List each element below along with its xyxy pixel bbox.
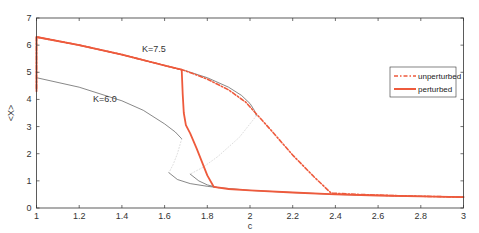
x-tick-label: 1.2: [73, 211, 86, 221]
series-line-k-7-5-unstable-middle-dotted: [190, 116, 256, 174]
y-axis-label: <X>: [6, 105, 16, 122]
y-tick-label: 4: [26, 94, 31, 104]
annotation-k-7-5: K=7.5: [142, 44, 166, 54]
legend: unperturbed perturbed: [390, 67, 461, 97]
x-tick-label: 2.2: [286, 211, 299, 221]
x-axis-label: c: [248, 221, 253, 231]
x-tick-label: 2: [247, 211, 252, 221]
axes-frame: [37, 18, 464, 208]
y-tick-label: 2: [26, 149, 31, 159]
x-tick-label: 1.8: [201, 211, 214, 221]
x-tick-label: 2.8: [415, 211, 428, 221]
x-tick-label: 2.6: [372, 211, 385, 221]
legend-perturbed-label: perturbed: [418, 85, 452, 94]
y-tick-label: 3: [26, 122, 31, 132]
y-tick-label: 1: [26, 176, 31, 186]
series-line-k-6-0-unstable-middle-dotted: [169, 139, 182, 173]
y-tick-label: 7: [26, 13, 31, 23]
x-tick-label: 3: [461, 211, 466, 221]
annotation-k-6-0: K=6.0: [93, 94, 117, 104]
plot-area: [37, 37, 464, 197]
x-tick-label: 1.6: [158, 211, 171, 221]
y-tick-label: 5: [26, 67, 31, 77]
annotations: K=7.5K=6.0: [93, 44, 166, 104]
x-tick-label: 2.4: [329, 211, 342, 221]
y-tick-label: 6: [26, 40, 31, 50]
legend-unperturbed-label: unperturbed: [418, 72, 461, 81]
x-tick-label: 1: [34, 211, 39, 221]
series-line-perturbed: [37, 37, 464, 197]
bifurcation-chart: 11.21.41.61.822.22.42.62.8301234567 K=7.…: [0, 0, 479, 233]
series-line-k-6-0-stable-upper-thin: [37, 78, 182, 139]
series-line-unperturbed: [37, 37, 464, 197]
x-tick-label: 1.4: [116, 211, 129, 221]
y-tick-label: 0: [26, 203, 31, 213]
